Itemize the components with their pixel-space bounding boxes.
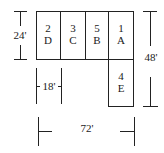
cell-c-number: 3 [61, 22, 85, 34]
cell-d-number: 2 [36, 22, 60, 34]
cell-d-label: 2 D [36, 22, 60, 46]
dimension-72-label: 72' [75, 122, 99, 134]
cell-e-letter: E [109, 82, 133, 94]
cell-b-number: 5 [85, 22, 109, 34]
cell-c-letter: C [61, 34, 85, 46]
cell-d-letter: D [36, 34, 60, 46]
cell-a-label: 1 A [109, 22, 133, 46]
cell-e-label: 4 E [109, 70, 133, 94]
cell-a-number: 1 [109, 22, 133, 34]
dimension-24-label: 24' [8, 29, 32, 41]
cell-b-letter: B [85, 34, 109, 46]
cell-a-letter: A [109, 34, 133, 46]
dimension-48-label: 48' [140, 51, 162, 63]
cell-e-number: 4 [109, 70, 133, 82]
cell-b-label: 5 B [85, 22, 109, 46]
cell-c-label: 3 C [61, 22, 85, 46]
dimension-18-label: 18' [40, 80, 58, 92]
